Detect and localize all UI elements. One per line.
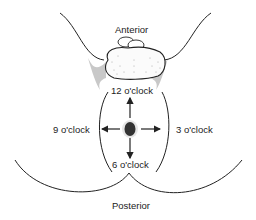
organ-body <box>106 47 166 79</box>
label-6-oclock: 6 o'clock <box>112 160 149 170</box>
label-3-oclock: 3 o'clock <box>176 125 213 135</box>
center-spot <box>125 122 136 136</box>
label-9-oclock: 9 o'clock <box>53 125 90 135</box>
label-posterior: Posterior <box>112 201 150 211</box>
label-12-oclock: 12 o'clock <box>111 86 153 96</box>
clock-orientation-diagram: Anterior 12 o'clock 9 o'clock 3 o'clock … <box>0 0 256 220</box>
right-upper-curve <box>164 13 211 60</box>
label-anterior: Anterior <box>115 25 148 35</box>
left-upper-curve <box>60 13 104 60</box>
oval-right-arc <box>156 92 169 172</box>
left-shaded-region <box>88 58 106 90</box>
oval-left-arc <box>99 92 112 172</box>
